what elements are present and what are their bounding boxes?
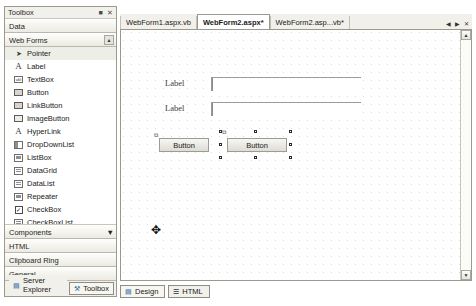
document-tab-webform2-aspx-vb[interactable]: WebForm2.asp...vb* — [270, 16, 350, 29]
label-control-1[interactable]: Label — [165, 78, 184, 88]
toolbox-icon: ⚒ — [74, 285, 80, 292]
selection-handle-top-center[interactable] — [254, 130, 257, 133]
view-tab-bar: ▤ Design ☰ HTML — [120, 281, 472, 299]
scrollbar-track[interactable] — [461, 40, 471, 270]
repeater-icon — [14, 192, 23, 201]
selection-handle-top-right[interactable] — [289, 130, 292, 133]
designer-vertical-scrollbar[interactable]: ▲ ▼ — [460, 30, 471, 280]
toolbox-item-list[interactable]: ➤ Pointer A Label abl TextBox Button Lin… — [5, 47, 116, 225]
toolbox-item-listbox[interactable]: ListBox — [5, 151, 116, 164]
view-tab-label: Design — [135, 287, 158, 296]
toolbox-item-dropdownlist[interactable]: DropDownList — [5, 138, 116, 151]
selection-handle-bottom-left[interactable] — [219, 156, 222, 159]
tab-scroll-right-button[interactable]: ▶ — [453, 19, 461, 28]
toolbox-item-textbox[interactable]: abl TextBox — [5, 73, 116, 86]
chevron-up-icon[interactable]: ▲ — [104, 35, 114, 45]
selection-handle-middle-right[interactable] — [289, 143, 292, 146]
toolbox-item-label: Repeater — [27, 192, 58, 201]
checkboxlist-icon — [14, 218, 23, 225]
toolbox-title: Toolbox — [8, 7, 96, 18]
toolbox-item-label: DropDownList — [27, 140, 74, 149]
tab-design-view[interactable]: ▤ Design — [120, 285, 165, 298]
toolbox-category-web-forms[interactable]: Web Forms ▲ — [5, 33, 116, 47]
tab-close-button[interactable]: ✕ — [462, 19, 470, 28]
toolbox-item-hyperlink[interactable]: A HyperLink — [5, 125, 116, 138]
linkbutton-icon — [14, 101, 23, 110]
label-control-2[interactable]: Label — [165, 103, 184, 113]
toolbox-item-label: Label — [27, 62, 45, 71]
toolbox-item-datagrid[interactable]: DataGrid — [5, 164, 116, 177]
toolbox-category-label: Web Forms — [9, 36, 104, 45]
scroll-down-button[interactable]: ▼ — [461, 270, 471, 280]
toolbox-item-label: Button — [27, 88, 49, 97]
selection-handle-bottom-right[interactable] — [289, 156, 292, 159]
toolbox-item-label: CheckBoxList — [27, 218, 73, 225]
toolbox-item-pointer[interactable]: ➤ Pointer — [5, 47, 116, 60]
toolbox-category-data[interactable]: Data — [5, 19, 116, 33]
view-tab-label: HTML — [182, 287, 202, 296]
toolbox-item-label: Pointer — [27, 49, 51, 58]
toolbox-category-html[interactable]: HTML — [5, 239, 116, 253]
toolbox-item-checkboxlist[interactable]: CheckBoxList — [5, 216, 116, 225]
toolbox-item-imagebutton[interactable]: ImageButton — [5, 112, 116, 125]
chevron-down-icon[interactable]: ▼ — [107, 228, 114, 237]
toolbox-category-components[interactable]: Components ▼ — [5, 225, 116, 239]
dropdownlist-icon — [14, 140, 23, 149]
panel-tab-label: Toolbox — [83, 284, 109, 293]
designer-canvas-wrap: Label Label ⧉ Button Button — [121, 30, 460, 280]
document-tab-label: WebForm2.asp...vb* — [276, 18, 344, 27]
designer-body: Label Label ⧉ Button Button — [120, 30, 472, 281]
toolbox-category-label: Clipboard Ring — [9, 256, 114, 265]
datalist-icon — [14, 179, 23, 188]
panel-tab-label: Server Explorer — [23, 276, 63, 294]
move-cursor: ✥ — [149, 224, 162, 237]
panel-tab-toolbox[interactable]: ⚒ Toolbox — [69, 282, 114, 295]
document-tab-webform2-aspx[interactable]: WebForm2.aspx* — [197, 14, 270, 29]
label-icon: A — [14, 62, 23, 71]
pointer-icon: ➤ — [14, 49, 23, 58]
toolbox-item-label: TextBox — [27, 75, 54, 84]
scroll-up-button[interactable]: ▲ — [461, 30, 471, 40]
toolbox-category-clipboard-ring[interactable]: Clipboard Ring — [5, 253, 116, 267]
toolbox-item-label: DataGrid — [27, 166, 57, 175]
selection-handle-middle-left[interactable] — [219, 143, 222, 146]
panel-tab-server-explorer[interactable]: ▤ Server Explorer — [9, 275, 67, 295]
toolbox-item-repeater[interactable]: Repeater — [5, 190, 116, 203]
toolbox-item-label[interactable]: A Label — [5, 60, 116, 73]
toolbox-item-label: ListBox — [27, 153, 52, 162]
selected-control-anchor-icon: ⧉ — [222, 129, 228, 135]
toolbox-item-label: CheckBox — [27, 205, 61, 214]
toolbox-item-label: LinkButton — [27, 101, 62, 110]
pin-icon[interactable]: ■ — [96, 8, 105, 17]
button-icon — [14, 88, 23, 97]
textbox-control-1[interactable] — [211, 77, 361, 91]
button-control-2[interactable]: Button — [227, 138, 287, 152]
toolbox-item-label: HyperLink — [27, 127, 61, 136]
button-control-1[interactable]: Button — [159, 138, 209, 152]
server-explorer-icon: ▤ — [13, 282, 20, 289]
imagebutton-icon — [14, 114, 23, 123]
toolbox-item-datalist[interactable]: DataList — [5, 177, 116, 190]
toolbox-item-button[interactable]: Button — [5, 86, 116, 99]
tab-scroll-left-button[interactable]: ◀ — [444, 19, 452, 28]
tab-html-view[interactable]: ☰ HTML — [168, 285, 209, 298]
toolbox-panel: Toolbox ■ ✕ Data Web Forms ▲ ➤ Pointer A… — [4, 6, 117, 297]
toolbox-item-label: ImageButton — [27, 114, 70, 123]
document-area: WebForm1.aspx.vb WebForm2.aspx* WebForm2… — [120, 14, 472, 297]
document-tab-label: WebForm1.aspx.vb — [126, 18, 191, 27]
document-tab-webform1-aspx-vb[interactable]: WebForm1.aspx.vb — [120, 16, 197, 29]
toolbox-category-label: Components — [9, 228, 107, 237]
selection-handle-bottom-center[interactable] — [254, 156, 257, 159]
toolbox-category-label: HTML — [9, 242, 114, 251]
textbox-control-2[interactable] — [211, 102, 361, 116]
design-surface[interactable]: Label Label ⧉ Button Button — [123, 32, 460, 280]
document-tab-label: WebForm2.aspx* — [203, 18, 264, 27]
toolbox-item-checkbox[interactable]: ✓ CheckBox — [5, 203, 116, 216]
toolbox-panel-tabs: ▤ Server Explorer ⚒ Toolbox — [5, 281, 116, 296]
toolbox-item-linkbutton[interactable]: LinkButton — [5, 99, 116, 112]
close-icon[interactable]: ✕ — [105, 8, 114, 17]
listbox-icon — [14, 153, 23, 162]
html-view-icon: ☰ — [173, 288, 179, 295]
vs-ide-window: Toolbox ■ ✕ Data Web Forms ▲ ➤ Pointer A… — [0, 0, 476, 306]
document-tab-bar: WebForm1.aspx.vb WebForm2.aspx* WebForm2… — [120, 14, 472, 30]
